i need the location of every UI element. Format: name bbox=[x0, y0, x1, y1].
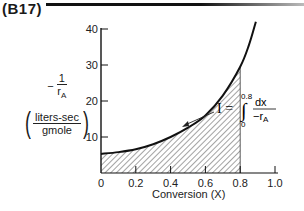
integral-lower-limit: 0 bbox=[241, 120, 246, 129]
integral-upper-limit: 0.8 bbox=[241, 92, 253, 101]
y-tick-label: 30 bbox=[86, 59, 98, 71]
integral-symbol-label: I = bbox=[217, 101, 233, 116]
x-tick-label: 0.2 bbox=[128, 177, 143, 189]
chart-canvas: 10203040 00.20.40.60.81.0 Conversion (X)… bbox=[0, 0, 304, 211]
y-tick-label: 10 bbox=[86, 131, 98, 143]
x-axis-title: Conversion (X) bbox=[152, 188, 225, 200]
y-tick-label: 20 bbox=[86, 95, 98, 107]
x-tick-label: 1.0 bbox=[267, 177, 282, 189]
y-ticks: 10203040 bbox=[86, 23, 108, 143]
shaded-area bbox=[101, 67, 240, 173]
y-tick-label: 40 bbox=[86, 23, 98, 35]
integral-denominator: −rA bbox=[253, 110, 269, 124]
x-tick-label: 0 bbox=[98, 177, 104, 189]
x-tick-label: 0.8 bbox=[233, 177, 248, 189]
annotation-arrowhead bbox=[182, 121, 189, 127]
integral-numerator: dx bbox=[255, 96, 267, 108]
